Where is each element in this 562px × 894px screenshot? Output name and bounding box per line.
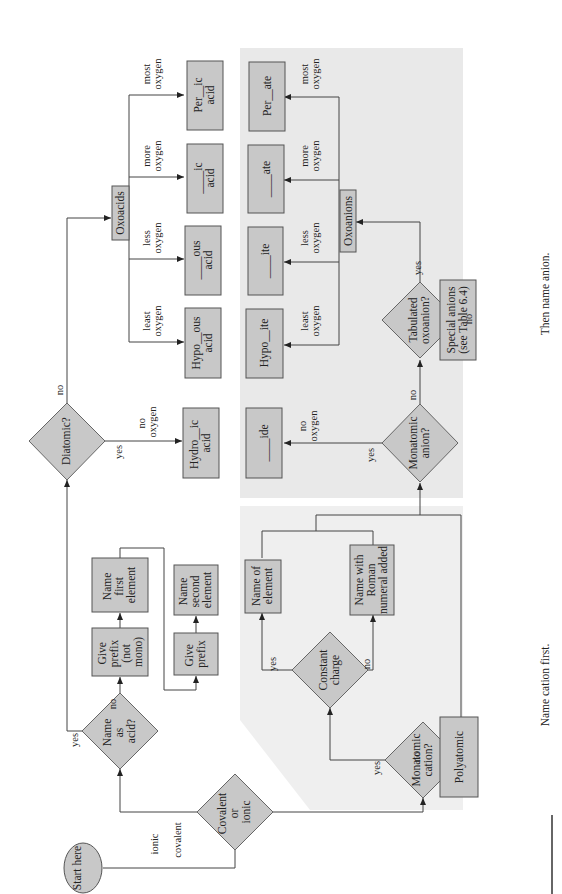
box-text: Name bbox=[177, 578, 189, 605]
naming-flowchart: Start here Covalent or ionic covalent io… bbox=[0, 0, 562, 894]
edge-label: oxygen bbox=[147, 406, 158, 438]
decision-text: Covalent bbox=[216, 792, 228, 834]
box-text: Oxoacids bbox=[114, 191, 126, 235]
box-text: acid bbox=[202, 250, 214, 269]
box-text: ____ic bbox=[192, 162, 204, 194]
box-text: first bbox=[113, 576, 125, 595]
decision-text: Name bbox=[101, 719, 113, 746]
svg-text:Hypo__ite: Hypo__ite bbox=[258, 319, 271, 368]
svg-text:no oxygen: no oxygen bbox=[136, 406, 158, 438]
decision-text: anion? bbox=[419, 428, 431, 459]
svg-text:Then name anion.: Then name anion. bbox=[539, 253, 551, 336]
svg-text:Diatomic?: Diatomic? bbox=[60, 417, 72, 465]
svg-text:yes: yes bbox=[412, 261, 423, 275]
edge-label: oxygen bbox=[152, 305, 163, 337]
decision-text: ionic bbox=[240, 801, 252, 824]
svg-text:Tabulatedoxoanion?: Tabulatedoxoanion? bbox=[407, 296, 431, 344]
edge-label: yes bbox=[412, 261, 423, 275]
edge-label: oxygen bbox=[308, 410, 319, 442]
svg-text:moreoxygen: moreoxygen bbox=[141, 140, 163, 172]
box-text: element bbox=[201, 571, 213, 608]
svg-text:Per__ate: Per__ate bbox=[261, 76, 273, 116]
box-text: Per__ic bbox=[192, 77, 204, 112]
decision-text: charge bbox=[329, 655, 342, 685]
box-text: Hypo__ite bbox=[258, 319, 271, 368]
decision-text: Monatomic bbox=[407, 416, 419, 469]
box-text: Polyatomic bbox=[453, 731, 466, 783]
box-text: Give bbox=[96, 642, 108, 664]
box-text: Name with bbox=[353, 554, 365, 605]
decision-text: cation? bbox=[422, 743, 434, 776]
svg-text:Give prefix (not: Give prefix (not mono) bbox=[96, 637, 145, 667]
box-text: ____ide bbox=[258, 424, 270, 462]
svg-text:Name second elemen: Name second element bbox=[177, 571, 213, 608]
edge-label: yes bbox=[365, 448, 376, 462]
edge-label: no bbox=[407, 390, 418, 401]
box-text: ____ite bbox=[259, 244, 271, 280]
edge-label: oxygen bbox=[152, 140, 163, 172]
box-text: acid bbox=[204, 85, 216, 104]
svg-text:Oxoacids: Oxoacids bbox=[114, 191, 126, 235]
edge-label: oxygen bbox=[152, 222, 163, 254]
edge-label: more bbox=[141, 145, 152, 167]
caption-anion: Then name anion. bbox=[539, 253, 551, 336]
box-text: Roman bbox=[365, 563, 377, 596]
box-text: Per__ate bbox=[261, 76, 273, 116]
box-text: mono) bbox=[132, 637, 145, 667]
edge-label: covalent bbox=[172, 822, 183, 858]
edge-label: less bbox=[141, 230, 152, 246]
svg-text:no: no bbox=[107, 699, 118, 710]
svg-text:yes: yes bbox=[371, 761, 382, 775]
box-text: numeral added bbox=[377, 546, 389, 614]
box-text: ____ous bbox=[190, 240, 202, 281]
edge-label: oxygen bbox=[310, 305, 321, 337]
svg-text:mostoxygen: mostoxygen bbox=[141, 58, 163, 90]
edge-label: yes bbox=[113, 445, 124, 459]
svg-text:Special anions(see Table 6.4): Special anions(see Table 6.4) bbox=[445, 286, 470, 354]
decision-text: Constant bbox=[317, 649, 329, 691]
edge-label: oxygen bbox=[310, 58, 321, 90]
svg-text:Constantcharge: Constantcharge bbox=[317, 649, 342, 691]
svg-text:Name ofelement: Name ofelement bbox=[250, 566, 274, 606]
box-text: Oxoanions bbox=[342, 196, 354, 246]
box-text: Name of bbox=[250, 566, 262, 606]
svg-text:yes: yes bbox=[113, 445, 124, 459]
edge-label: more bbox=[299, 145, 310, 167]
decision-text: or bbox=[228, 808, 240, 818]
edge-label: yes bbox=[69, 733, 80, 747]
svg-text:ionic: ionic bbox=[149, 833, 160, 854]
box-text: acid bbox=[202, 333, 214, 352]
svg-text:____ate: ____ate bbox=[260, 161, 272, 198]
edge-label: most bbox=[299, 64, 310, 85]
edge-label: less bbox=[299, 230, 310, 246]
box-text: Give bbox=[183, 644, 195, 666]
svg-text:yes: yes bbox=[267, 657, 278, 671]
edge-label: no bbox=[361, 659, 372, 670]
svg-text:no: no bbox=[407, 390, 418, 401]
svg-text:____ide: ____ide bbox=[258, 424, 270, 462]
edge-label: no bbox=[54, 385, 65, 396]
svg-text:yes: yes bbox=[69, 733, 80, 747]
edge-label: oxygen bbox=[310, 222, 321, 254]
svg-text:yes: yes bbox=[365, 448, 376, 462]
svg-text:leastoxygen: leastoxygen bbox=[141, 305, 163, 337]
edge-label: oxygen bbox=[310, 140, 321, 172]
box-text: (see Table 6.4) bbox=[457, 286, 470, 354]
svg-text:Name cation first.: Name cation first. bbox=[539, 644, 551, 727]
start-label: Start here bbox=[71, 846, 83, 890]
decision-text: oxoanion? bbox=[419, 296, 431, 344]
box-text: Name bbox=[101, 573, 113, 600]
svg-text:lessoxygen: lessoxygen bbox=[141, 222, 163, 254]
svg-text:Give prefix: Give prefix bbox=[183, 640, 208, 668]
box-text: prefix bbox=[195, 640, 208, 668]
box-text: second bbox=[189, 575, 201, 607]
decision-text: Tabulated bbox=[407, 297, 419, 342]
box-text: element bbox=[262, 567, 274, 604]
box-text: acid bbox=[200, 433, 212, 452]
svg-text:Oxoanions: Oxoanions bbox=[342, 196, 354, 246]
edge-label: yes bbox=[371, 761, 382, 775]
svg-text:____ite: ____ite bbox=[259, 244, 271, 280]
edge-label: ionic bbox=[149, 833, 160, 854]
box-text: acid bbox=[204, 168, 216, 187]
edge-label: no bbox=[411, 752, 422, 763]
